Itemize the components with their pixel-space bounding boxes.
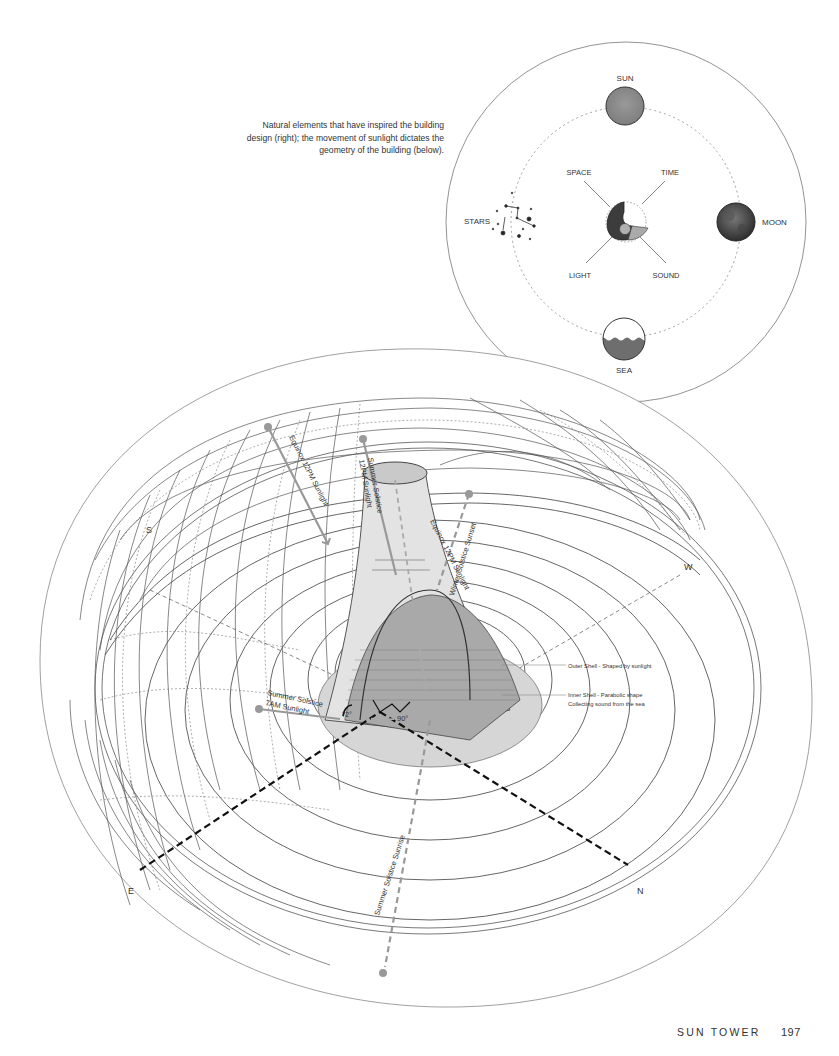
sea-label: SEA xyxy=(616,366,633,375)
sun-path-diagram: S W E N Equinox 12PM Sunlight Summer Sol… xyxy=(40,349,812,1007)
sun-icon xyxy=(606,87,644,125)
running-head: SUN TOWER xyxy=(677,1026,761,1038)
angle-90: 90° xyxy=(397,714,408,723)
time-label: TIME xyxy=(661,168,679,177)
annotation-outer-shell: Outer Shell - Shaped by sunlight xyxy=(568,663,652,669)
sun-tower-illustration: SUN MOON SEA xyxy=(0,0,839,1056)
compass-west: W xyxy=(684,562,693,572)
compass-south: S xyxy=(146,525,152,535)
elements-diagram: SUN MOON SEA xyxy=(446,42,806,402)
angle-72: 72° xyxy=(342,711,352,718)
page-number: 197 xyxy=(781,1026,801,1038)
sun-label: SUN xyxy=(617,74,634,83)
annotation-inner-shell-line1: Inner Shell - Parabolic shape xyxy=(568,692,642,698)
moon-label: MOON xyxy=(762,218,787,227)
annotation-inner-shell-line2: Collecting sound from the sea xyxy=(568,701,645,707)
stars-label: STARS xyxy=(464,217,490,226)
sound-label: SOUND xyxy=(652,271,680,280)
compass-north: N xyxy=(637,886,644,896)
moon-icon xyxy=(717,203,755,241)
compass-east: E xyxy=(128,886,134,896)
space-label: SPACE xyxy=(567,168,592,177)
light-label: LIGHT xyxy=(569,271,592,280)
